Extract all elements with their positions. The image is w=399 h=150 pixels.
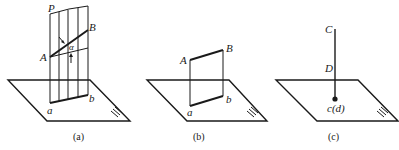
label-A-b: A bbox=[179, 54, 187, 66]
label-C: C bbox=[325, 23, 333, 35]
label-A-a: A bbox=[39, 51, 47, 63]
segment-AB-b bbox=[190, 50, 223, 60]
label-alpha: α bbox=[69, 42, 74, 52]
plane-p bbox=[50, 6, 88, 103]
figure-c: C D c(d) (c) bbox=[276, 23, 398, 143]
figure-b: A B a b (b) bbox=[147, 42, 267, 143]
label-a-b: a bbox=[187, 106, 193, 118]
projection-diagram: P B A α a b (a) A B a b (b) bbox=[0, 0, 399, 150]
label-a-a: a bbox=[47, 104, 53, 116]
label-B-a: B bbox=[89, 21, 96, 33]
segment-ab-b bbox=[190, 96, 223, 106]
caption-a: (a) bbox=[73, 131, 84, 143]
segment-ab-a bbox=[50, 95, 88, 103]
caption-c: (c) bbox=[328, 131, 339, 143]
label-cd: c(d) bbox=[327, 102, 345, 115]
caption-b: (b) bbox=[193, 131, 205, 143]
plane-h-a bbox=[8, 80, 130, 121]
label-b-b: b bbox=[226, 93, 232, 105]
plane-h-hatch-a bbox=[111, 107, 122, 117]
label-D: D bbox=[324, 62, 333, 74]
point-cd bbox=[332, 96, 337, 101]
label-P: P bbox=[47, 2, 55, 14]
figure-a: P B A α a b (a) bbox=[8, 2, 130, 143]
label-B-b: B bbox=[226, 42, 233, 54]
label-b-a: b bbox=[89, 92, 95, 104]
